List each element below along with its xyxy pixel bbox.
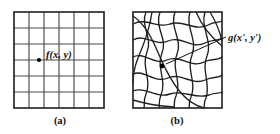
panel-b-leader-line xyxy=(166,37,226,64)
panel-b-warped-v-curve xyxy=(144,12,149,108)
panel-b-warped-u-curve xyxy=(133,56,222,64)
panel-b-warped-extra-curve xyxy=(133,100,174,107)
panel-b-function-label: g(x', y') xyxy=(227,32,261,44)
panel-b-group: g(x', y') (b) xyxy=(133,12,261,127)
panel-a-caption: (a) xyxy=(54,115,67,127)
figure-container: f(x, y) (a) g(x', y') (b) xyxy=(0,0,280,134)
figure-diagram: f(x, y) (a) g(x', y') (b) xyxy=(0,0,280,134)
panel-b-sample-point xyxy=(160,64,165,69)
panel-a-sample-point xyxy=(37,58,41,62)
panel-a-grid-lines xyxy=(14,12,104,108)
panel-b-caption: (b) xyxy=(171,115,184,127)
panel-a-function-label: f(x, y) xyxy=(46,49,72,61)
panel-b-warped-u-curve xyxy=(133,21,222,27)
panel-a-group: f(x, y) (a) xyxy=(14,12,104,127)
panel-b-warped-grid xyxy=(133,12,222,108)
